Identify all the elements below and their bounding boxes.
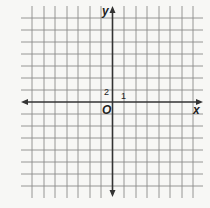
y-axis-up-arrow-icon [110, 6, 116, 13]
y-scale-label: 2 [104, 87, 109, 97]
coordinate-plane: y x O 2 1 [0, 0, 210, 208]
y-axis-label: y [101, 4, 110, 18]
x-axis-left-arrow-icon [21, 99, 28, 105]
x-axis-label: x [192, 103, 201, 117]
y-axis-down-arrow-icon [110, 190, 116, 197]
x-scale-label: 1 [121, 91, 126, 101]
origin-label: O [102, 103, 112, 117]
